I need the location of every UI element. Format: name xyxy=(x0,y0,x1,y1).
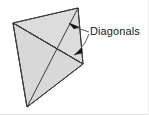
diagonals-label: Diagonals xyxy=(90,25,140,38)
geometry-figure xyxy=(0,0,149,115)
diagram-canvas: Diagonals xyxy=(0,0,149,115)
